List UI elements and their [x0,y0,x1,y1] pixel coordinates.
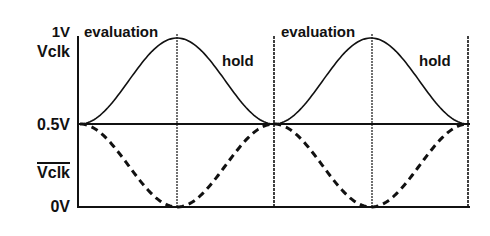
phase-label-hold-1: hold [222,53,254,68]
phase-label-evaluation-2: evaluation [281,24,355,39]
phase-label-hold-2: hold [419,53,451,68]
label-1v: 1V [0,24,70,39]
label-0v: 0V [0,199,70,215]
phase-label-evaluation-1: evaluation [84,24,158,39]
clock-waveform-diagram [0,0,490,236]
label-0.5v: 0.5V [0,117,70,133]
label-vclk: Vclk [0,44,70,60]
label-vclk-bar: Vclk [0,162,70,181]
vclk-bar-text: Vclk [37,162,70,181]
